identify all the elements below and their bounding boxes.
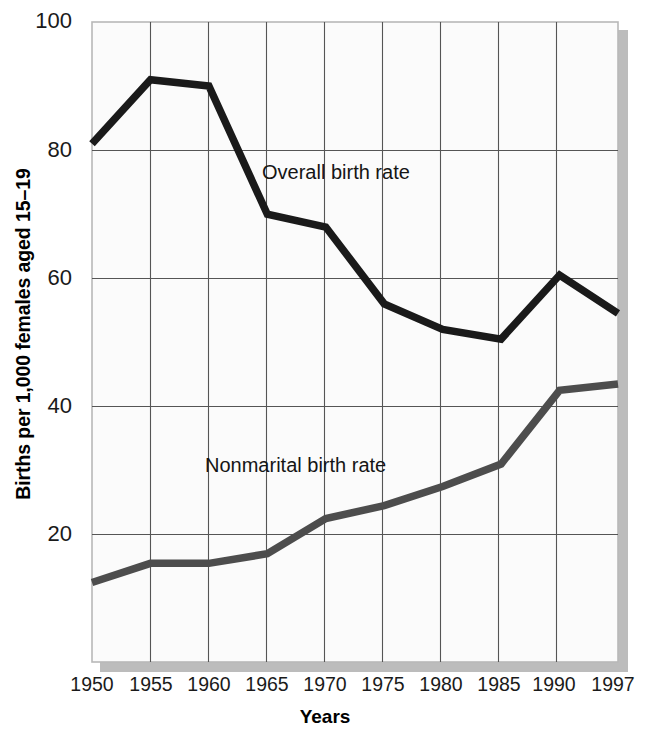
y-tick-label-80: 80: [20, 137, 72, 163]
series-annotation-overall-birth-rate: Overall birth rate: [262, 161, 410, 184]
plot-area: [0, 0, 650, 732]
x-tick-label-1990: 1990: [518, 673, 590, 696]
x-axis-title: Years: [0, 706, 650, 728]
y-tick-label-100: 100: [20, 8, 72, 34]
chart-figure: Births per 1,000 females aged 15–19: [0, 0, 650, 732]
y-tick-label-20: 20: [20, 521, 72, 547]
y-tick-label-60: 60: [20, 265, 72, 291]
x-tick-label-1997: 1997: [582, 673, 644, 696]
series-annotation-nonmarital-birth-rate: Nonmarital birth rate: [205, 454, 386, 477]
x-axis-title-text: Years: [300, 706, 351, 727]
y-tick-label-40: 40: [20, 393, 72, 419]
